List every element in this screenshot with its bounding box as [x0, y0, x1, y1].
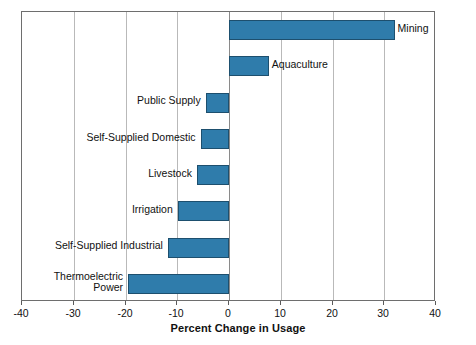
- x-tick-label-40: 40: [415, 307, 455, 319]
- bar: [206, 93, 229, 113]
- plot-area: [21, 11, 435, 301]
- x-tick-10: [280, 301, 281, 305]
- bar-label-line: Power: [0, 282, 123, 294]
- bar: [197, 165, 229, 185]
- bar: [128, 274, 229, 294]
- bar: [168, 238, 229, 258]
- x-tick--40: [21, 301, 22, 305]
- bar-chart: MiningAquaculturePublic SupplySelf-Suppl…: [0, 0, 476, 345]
- gridline-0: [229, 12, 230, 300]
- bar-label: Aquaculture: [272, 59, 476, 71]
- bar: [178, 201, 229, 221]
- gridline-20: [333, 12, 334, 300]
- x-tick-label--30: -30: [53, 307, 93, 319]
- bar-label: ThermoelectricPower: [0, 271, 123, 294]
- x-axis-title: Percent Change in Usage: [0, 322, 476, 334]
- gridline-10: [281, 12, 282, 300]
- bar-label-line: Mining: [398, 23, 476, 35]
- x-tick--30: [73, 301, 74, 305]
- gridline-30: [384, 12, 385, 300]
- x-tick-20: [332, 301, 333, 305]
- bar-label: Mining: [398, 23, 476, 35]
- x-tick-label--10: -10: [156, 307, 196, 319]
- gridline--30: [74, 12, 75, 300]
- bar-label-line: Public Supply: [0, 95, 201, 107]
- x-tick-label-20: 20: [312, 307, 352, 319]
- bar-label: Livestock: [0, 168, 192, 180]
- x-tick-label-0: 0: [208, 307, 248, 319]
- bar: [229, 56, 269, 76]
- x-tick-label-30: 30: [363, 307, 403, 319]
- x-tick-label--20: -20: [105, 307, 145, 319]
- gridline--20: [126, 12, 127, 300]
- bar-label-line: Self-Supplied Industrial: [0, 240, 163, 252]
- bar-label: Self-Supplied Industrial: [0, 240, 163, 252]
- x-tick-30: [383, 301, 384, 305]
- bar-label: Irrigation: [0, 204, 173, 216]
- x-tick-40: [435, 301, 436, 305]
- bar: [201, 129, 229, 149]
- bar-label-line: Livestock: [0, 168, 192, 180]
- x-tick-label--40: -40: [1, 307, 41, 319]
- x-tick--10: [176, 301, 177, 305]
- bar: [229, 20, 395, 40]
- bar-label-line: Self-Supplied Domestic: [0, 132, 196, 144]
- x-tick--20: [125, 301, 126, 305]
- bar-label: Self-Supplied Domestic: [0, 132, 196, 144]
- bar-label-line: Aquaculture: [272, 59, 476, 71]
- x-tick-0: [228, 301, 229, 305]
- x-tick-label-10: 10: [260, 307, 300, 319]
- bar-label-line: Irrigation: [0, 204, 173, 216]
- bar-label: Public Supply: [0, 95, 201, 107]
